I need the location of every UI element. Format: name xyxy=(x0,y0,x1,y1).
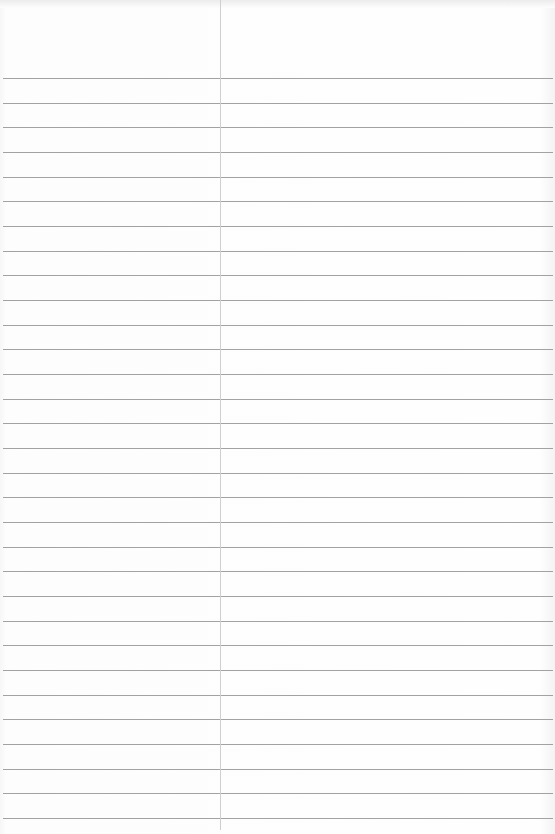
ruled-line xyxy=(3,818,553,819)
ruled-line xyxy=(3,127,553,128)
ruled-line xyxy=(3,695,553,696)
ruled-line xyxy=(3,571,553,572)
ruled-line xyxy=(3,744,553,745)
margin-line xyxy=(220,0,221,830)
ruled-line xyxy=(3,621,553,622)
notepaper xyxy=(0,0,555,834)
ruled-line xyxy=(3,399,553,400)
ruled-line xyxy=(3,448,553,449)
ruled-line xyxy=(3,177,553,178)
ruled-line xyxy=(3,374,553,375)
ruled-line xyxy=(3,719,553,720)
top-edge-shadow xyxy=(0,0,555,8)
ruled-line xyxy=(3,670,553,671)
ruled-line xyxy=(3,473,553,474)
ruled-line xyxy=(3,325,553,326)
ruled-line xyxy=(3,497,553,498)
ruled-line xyxy=(3,226,553,227)
ruled-line xyxy=(3,300,553,301)
ruled-line xyxy=(3,78,553,79)
ruled-line xyxy=(3,275,553,276)
ruled-line xyxy=(3,423,553,424)
ruled-line xyxy=(3,103,553,104)
ruled-line xyxy=(3,596,553,597)
ruled-line xyxy=(3,201,553,202)
ruled-line xyxy=(3,522,553,523)
ruled-line xyxy=(3,152,553,153)
ruled-line xyxy=(3,645,553,646)
ruled-line xyxy=(3,547,553,548)
ruled-line xyxy=(3,769,553,770)
ruled-line xyxy=(3,349,553,350)
ruled-line xyxy=(3,251,553,252)
ruled-line xyxy=(3,793,553,794)
